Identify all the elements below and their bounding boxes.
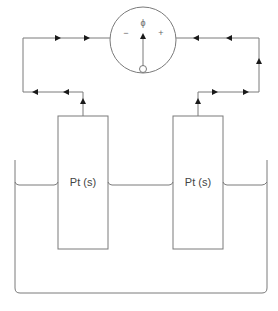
right-wire: [176, 38, 259, 116]
arrow-right-icon: [212, 89, 218, 95]
arrow-left-icon: [226, 35, 232, 41]
arrow-right-icon: [243, 89, 249, 95]
right-electrode-label: Pt (s): [185, 176, 211, 188]
arrow-right-icon: [55, 35, 61, 41]
voltmeter-negative: −: [123, 28, 128, 38]
arrow-up-icon: [256, 58, 262, 64]
cell-diagram: Pt (s) Pt (s) ϕ − +: [0, 0, 278, 311]
arrow-left-icon: [32, 89, 38, 95]
arrow-left-icon: [193, 35, 199, 41]
solution-surface-right: [223, 182, 267, 185]
voltmeter: ϕ − +: [110, 7, 176, 73]
left-electrode-label: Pt (s): [70, 176, 96, 188]
voltmeter-symbol: ϕ: [140, 18, 145, 28]
solution-surface-middle: [108, 182, 173, 185]
arrow-up-icon: [80, 98, 86, 104]
arrow-up-icon: [195, 98, 201, 104]
solution-surface-left: [15, 182, 58, 185]
arrow-right-icon: [84, 35, 90, 41]
arrow-left-icon: [63, 89, 69, 95]
voltmeter-positive: +: [158, 28, 163, 38]
needle-tip-icon: [140, 33, 146, 39]
beaker: [15, 160, 267, 293]
needle-pivot: [140, 66, 147, 73]
left-wire: [23, 38, 110, 116]
